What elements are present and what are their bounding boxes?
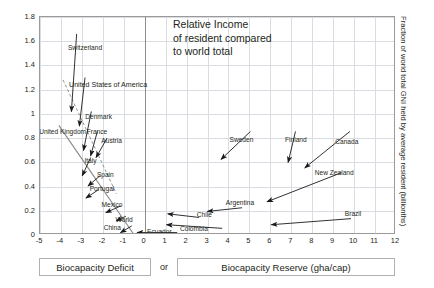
x-tick-label: -3	[78, 236, 85, 245]
y-tick-label: 0.4	[25, 181, 35, 190]
country-label: Austria	[101, 136, 122, 143]
x-tick-label: 2	[183, 236, 187, 245]
x-tick-label: -1	[119, 236, 126, 245]
country-label: Italy	[84, 156, 96, 163]
x-tick-label: -2	[98, 236, 105, 245]
legend-biocapacity-deficit: Biocapacity Deficit	[39, 258, 151, 276]
country-label: United States of America	[69, 81, 147, 89]
y-axis-ticks: 00.20.40.60.811.21.41.61.8	[4, 16, 37, 234]
x-tick-label: -4	[57, 236, 64, 245]
x-axis-ticks: -5-4-3-2-10123456789101112	[39, 236, 395, 250]
country-label: France	[87, 128, 108, 135]
y-tick-label: 0.2	[25, 205, 35, 214]
y-tick-label: 1.8	[25, 12, 35, 21]
country-label: Portugal	[90, 185, 115, 192]
x-tick-label: 5	[246, 236, 250, 245]
country-label: Chile	[197, 210, 212, 217]
country-label: Ecuador	[147, 227, 172, 234]
country-label: China	[104, 223, 121, 230]
x-tick-label: -5	[36, 236, 43, 245]
country-label: Denmark	[85, 112, 112, 119]
country-label: Switzerland	[68, 43, 102, 50]
y-tick-label: 0.8	[25, 133, 35, 142]
country-label: Colombia	[180, 224, 208, 231]
country-label: Finland	[285, 136, 307, 143]
relative-income-annotation: Relative Income of resident compared to …	[173, 18, 272, 59]
chart-root: SwitzerlandUnited States of AmericaDenma…	[0, 0, 434, 288]
country-label: Argentina	[226, 199, 254, 206]
x-tick-label: 7	[288, 236, 292, 245]
x-tick-label: 4	[225, 236, 229, 245]
x-tick-label: 10	[349, 236, 357, 245]
y-tick-label: 0	[31, 230, 35, 239]
y-axis-right-title: Fraction of world total GNI held by aver…	[388, 16, 408, 234]
country-label: Mexico	[102, 201, 123, 208]
country-label: World	[116, 215, 133, 222]
x-tick-label: 9	[330, 236, 334, 245]
legend-biocapacity-reserve: Biocapacity Reserve (gha/cap)	[177, 258, 395, 276]
country-label: Spain	[97, 171, 114, 178]
country-label: New Zealand	[315, 169, 354, 176]
country-label: Brazil	[345, 210, 362, 217]
x-tick-label: 11	[370, 236, 378, 245]
country-label: United Kingdom	[39, 128, 86, 135]
x-tick-label: 1	[163, 236, 167, 245]
country-label: Canada	[335, 138, 358, 145]
x-axis-legend: Biocapacity Deficit or Biocapacity Reser…	[39, 256, 395, 278]
y-tick-label: 0.6	[25, 157, 35, 166]
y-tick-label: 1.2	[25, 84, 35, 93]
legend-or: or	[151, 262, 177, 272]
y-tick-label: 1.6	[25, 36, 35, 45]
x-tick-label: 6	[267, 236, 271, 245]
x-tick-label: 8	[309, 236, 313, 245]
y-tick-label: 1.4	[25, 60, 35, 69]
x-tick-label: 3	[204, 236, 208, 245]
y-tick-label: 1	[31, 108, 35, 117]
country-label: Sweden	[230, 136, 254, 143]
x-tick-label: 0	[142, 236, 146, 245]
x-tick-label: 12	[391, 236, 399, 245]
